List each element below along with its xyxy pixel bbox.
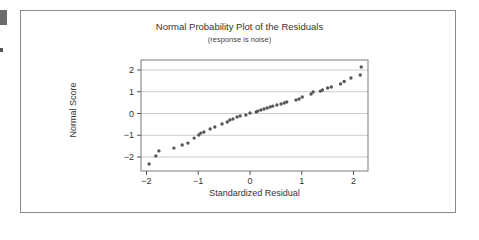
data-point	[359, 73, 362, 76]
y-tick-label: 2	[129, 65, 134, 75]
data-point	[259, 108, 262, 111]
data-point	[311, 90, 314, 93]
data-point	[202, 130, 205, 133]
data-point	[275, 103, 278, 106]
data-point	[213, 125, 216, 128]
data-point	[342, 80, 345, 83]
data-points	[147, 65, 363, 165]
y-tick-label: 1	[129, 87, 134, 97]
y-tick-label: 0	[129, 109, 134, 119]
data-point	[172, 146, 175, 149]
x-tick-label: 1	[299, 176, 304, 186]
data-point	[279, 102, 282, 105]
y-axis-ticks: −2−1012	[124, 65, 141, 162]
data-point	[208, 127, 211, 130]
data-point	[301, 95, 304, 98]
data-point	[339, 82, 342, 85]
data-point	[262, 107, 265, 110]
data-point	[326, 86, 329, 89]
data-point	[186, 141, 189, 144]
data-point	[330, 85, 333, 88]
x-tick-label: −1	[193, 176, 203, 186]
data-point	[231, 117, 234, 120]
x-tick-label: 2	[351, 176, 356, 186]
data-point	[294, 98, 297, 101]
gridlines	[141, 70, 368, 157]
x-axis-label: Standardized Residual	[141, 188, 368, 198]
data-point	[265, 106, 268, 109]
data-point	[271, 104, 274, 107]
x-tick-label: 0	[247, 176, 252, 186]
data-point	[235, 115, 238, 118]
data-point	[360, 65, 363, 68]
data-point	[199, 131, 202, 134]
data-point	[244, 113, 247, 116]
data-point	[220, 122, 223, 125]
data-point	[349, 76, 352, 79]
x-axis-ticks: −2−1012	[141, 171, 356, 186]
y-tick-label: −1	[124, 130, 134, 140]
data-point	[297, 97, 300, 100]
data-point	[192, 136, 195, 139]
data-point	[321, 88, 324, 91]
data-point	[154, 154, 157, 157]
x-tick-label: −2	[141, 176, 151, 186]
data-point	[256, 109, 259, 112]
plot-box	[141, 60, 368, 171]
data-point	[228, 118, 231, 121]
y-axis-label: Normal Score	[68, 65, 78, 155]
data-point	[248, 111, 251, 114]
y-tick-label: −2	[124, 152, 134, 162]
data-point	[147, 162, 150, 165]
data-point	[181, 143, 184, 146]
data-point	[157, 149, 160, 152]
data-point	[238, 114, 241, 117]
data-point	[285, 100, 288, 103]
